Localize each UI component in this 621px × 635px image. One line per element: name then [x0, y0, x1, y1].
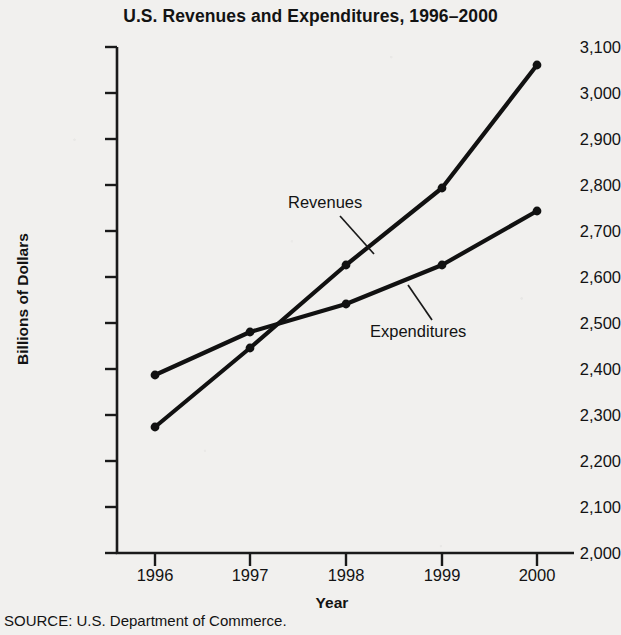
series-line-expenditures — [155, 211, 537, 375]
series-markers-revenues — [151, 61, 542, 432]
series-markers-expenditures — [151, 207, 542, 380]
line-chart-figure: Billions of Dollars Year 3,100 3,000 2,9… — [0, 0, 621, 635]
series-annotation-revenues: Revenues — [288, 193, 362, 212]
y-axis-ticks — [105, 47, 117, 553]
source-note: SOURCE: U.S. Department of Commerce. — [4, 612, 287, 629]
series-line-revenues — [155, 65, 537, 427]
plot-area — [0, 0, 621, 635]
series-annotation-expenditures: Expenditures — [370, 322, 466, 341]
leader-line-expenditures — [408, 285, 432, 320]
leader-line-revenues — [340, 216, 374, 254]
x-axis-ticks — [155, 553, 537, 566]
